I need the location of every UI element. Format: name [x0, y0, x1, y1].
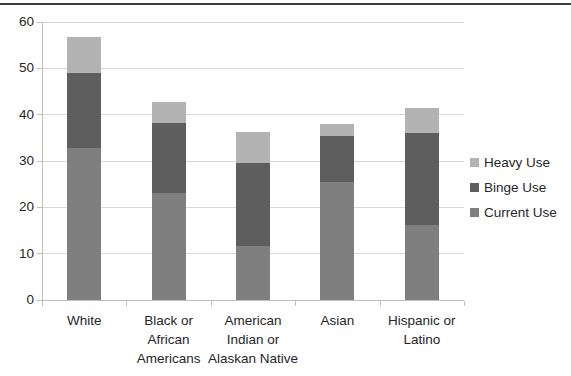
y-axis-tick-label: 40 [6, 106, 34, 124]
bar-segment [236, 163, 270, 246]
x-axis-tick-mark [464, 301, 465, 306]
bar-segment [405, 133, 439, 225]
x-category-label: American Indian or Alaskan Native [205, 311, 301, 368]
bar-segment [405, 225, 439, 300]
legend-item: Heavy Use [470, 155, 557, 170]
x-axis-line [42, 300, 464, 301]
x-category-label: White [36, 311, 132, 330]
bar-segment [320, 182, 354, 300]
gridline [42, 114, 464, 115]
y-axis-tick-label: 60 [6, 13, 34, 31]
x-axis-tick-mark [295, 301, 296, 306]
bar-segment [236, 132, 270, 163]
bar-segment [67, 73, 101, 148]
x-axis-tick-mark [380, 301, 381, 306]
bar-segment [236, 246, 270, 300]
bar-segment [320, 136, 354, 182]
stacked-bar-chart: Heavy UseBinge UseCurrent Use 0102030405… [0, 0, 571, 376]
legend-swatch [470, 208, 479, 217]
y-axis-line [42, 22, 43, 300]
x-axis-tick-mark [42, 301, 43, 306]
legend-label: Current Use [484, 205, 557, 220]
legend-swatch [470, 183, 479, 192]
y-axis-tick-label: 10 [6, 245, 34, 263]
y-axis-tick-label: 30 [6, 152, 34, 170]
x-category-label: Asian [289, 311, 385, 330]
chart-legend: Heavy UseBinge UseCurrent Use [470, 155, 557, 230]
bar-segment [152, 123, 186, 194]
legend-label: Heavy Use [484, 155, 550, 170]
y-axis-tick-label: 50 [6, 59, 34, 77]
legend-item: Binge Use [470, 180, 557, 195]
x-category-label: Hispanic or Latino [374, 311, 470, 349]
y-axis-tick-label: 20 [6, 198, 34, 216]
x-axis-tick-mark [211, 301, 212, 306]
legend-swatch [470, 158, 479, 167]
bar-segment [405, 108, 439, 133]
gridline [42, 22, 464, 23]
bar-segment [67, 148, 101, 300]
y-axis-tick-label: 0 [6, 291, 34, 309]
x-axis-tick-mark [126, 301, 127, 306]
gridline [42, 68, 464, 69]
bar-segment [320, 124, 354, 135]
bar-segment [67, 37, 101, 73]
legend-label: Binge Use [484, 180, 546, 195]
page: Heavy UseBinge UseCurrent Use 0102030405… [0, 0, 571, 376]
legend-item: Current Use [470, 205, 557, 220]
bar-segment [152, 193, 186, 300]
bar-segment [152, 102, 186, 123]
x-category-label: Black or African Americans [121, 311, 217, 368]
